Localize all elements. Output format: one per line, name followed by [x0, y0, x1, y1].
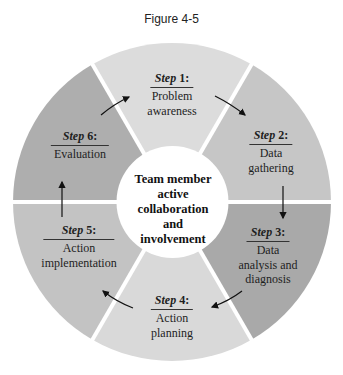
- step-2-label: Step 2: Datagathering: [248, 125, 293, 175]
- step-4-label: Step 4: Actionplanning: [151, 290, 193, 340]
- step-3-label: Step 3: Dataanalysis anddiagnosis: [239, 222, 298, 287]
- center-label: Team member active collaboration and inv…: [118, 172, 228, 247]
- step-6-label: Step 6: Evaluation: [51, 126, 109, 162]
- step-1-label: Step 1: Problemawareness: [147, 68, 196, 118]
- step-5-label: Step 5: Actionimplementation: [41, 220, 116, 270]
